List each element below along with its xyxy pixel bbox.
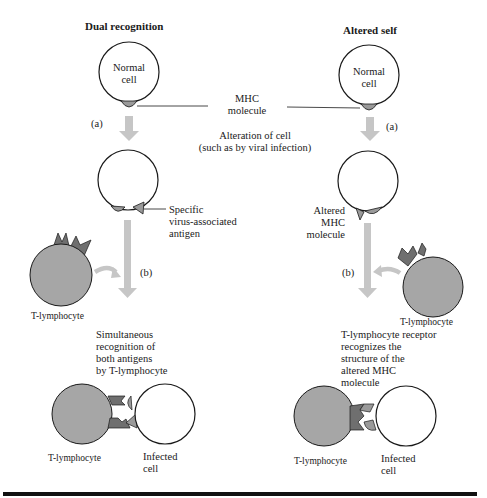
tlymphocyte-left-label: T-lymphocyte bbox=[31, 310, 84, 322]
altered-mhc-label-3: molecule bbox=[290, 229, 345, 241]
step-a-left: (a) bbox=[91, 118, 103, 130]
right-result-4: altered MHC bbox=[341, 365, 396, 377]
left-result-2: recognition of bbox=[96, 341, 155, 353]
left-panel-title: Dual recognition bbox=[85, 20, 163, 32]
step-b-left: (b) bbox=[140, 267, 152, 279]
right-panel-title: Altered self bbox=[343, 24, 397, 36]
left-result-1: Simultaneous bbox=[96, 329, 153, 341]
arrow-a-right bbox=[360, 117, 380, 141]
arrow-b-right bbox=[358, 223, 377, 298]
mhc-pointer-right bbox=[287, 107, 360, 108]
infected-left-label-2: cell bbox=[143, 463, 158, 475]
right-result-1: T-lymphocyte receptor bbox=[341, 329, 437, 341]
mhc-label-1: MHC bbox=[212, 93, 282, 105]
arrow-a-left bbox=[119, 116, 139, 141]
normal-cell-right-label-1: Normal bbox=[344, 66, 394, 78]
bottom-tcell-left-label: T-lymphocyte bbox=[48, 452, 101, 464]
antigen-label-1: Specific bbox=[169, 204, 203, 216]
antigen-label-3: antigen bbox=[169, 228, 200, 240]
tlymphocyte-right-label: T-lymphocyte bbox=[400, 316, 453, 328]
left-result-3: both antigens bbox=[96, 353, 152, 365]
tlymphocyte-right bbox=[398, 243, 463, 317]
altered-cell-right bbox=[338, 151, 398, 211]
arrow-b-left bbox=[118, 220, 137, 298]
alteration-label-1: Alteration of cell bbox=[170, 130, 340, 142]
normal-cell-left-label-2: cell bbox=[104, 74, 154, 86]
complex-right bbox=[294, 386, 436, 446]
step-b-right: (b) bbox=[342, 267, 354, 279]
step-a-right: (a) bbox=[386, 121, 398, 133]
mhc-label-2: molecule bbox=[212, 105, 282, 117]
right-result-3: structure of the bbox=[341, 353, 405, 365]
mhc-molecule-left bbox=[121, 101, 137, 107]
complex-left bbox=[52, 384, 195, 444]
normal-cell-right-label-2: cell bbox=[344, 78, 394, 90]
left-result-4: by T-lymphocyte bbox=[96, 365, 167, 377]
infected-cell-left bbox=[98, 150, 158, 210]
infected-left-label-1: Infected bbox=[143, 451, 177, 463]
right-result-5: molecule bbox=[341, 377, 379, 389]
diagram-canvas bbox=[0, 0, 487, 498]
bottom-rule bbox=[3, 492, 477, 496]
alteration-label-2: (such as by viral infection) bbox=[170, 142, 340, 154]
tlymphocyte-left bbox=[30, 233, 92, 306]
altered-mhc-label-2: MHC bbox=[290, 217, 345, 229]
antigen-label-2: virus-associated bbox=[169, 216, 237, 228]
right-result-2: recognizes the bbox=[341, 341, 401, 353]
mhc-molecule-right bbox=[361, 104, 377, 110]
infected-right-label-1: Infected bbox=[381, 453, 415, 465]
altered-mhc-label-1: Altered bbox=[290, 205, 345, 217]
normal-cell-left-label-1: Normal bbox=[104, 62, 154, 74]
infected-right-label-2: cell bbox=[381, 465, 396, 477]
bottom-tcell-right-label: T-lymphocyte bbox=[294, 455, 347, 467]
mhc-molecule-left-2 bbox=[111, 206, 125, 211]
